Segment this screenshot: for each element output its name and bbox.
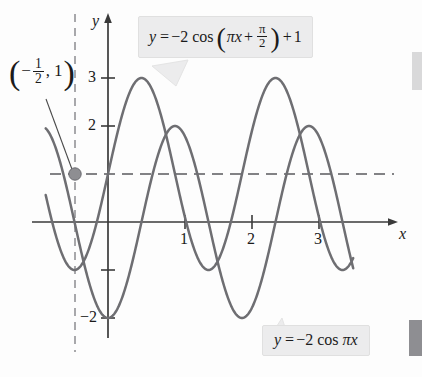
- callout-upper-equals: =: [160, 29, 169, 45]
- callout-upper-plus-inner: +: [244, 29, 253, 45]
- y-tick-label-2: 2: [88, 116, 96, 134]
- y-tick-label-neg2: −2: [80, 308, 97, 326]
- callout-upper-frac-den: 2: [257, 36, 267, 50]
- point-comma: ,: [46, 61, 50, 81]
- x-tick-label-1: 1: [180, 230, 188, 248]
- callout-lower-coef: −2: [296, 332, 313, 348]
- point-y-value: 1: [54, 61, 63, 81]
- callout-upper-open-paren: (: [217, 29, 226, 46]
- point-coordinate-label: ( − 1 2 , 1 ): [8, 57, 76, 86]
- callout-upper-fraction: π 2: [257, 23, 267, 50]
- callout-upper-cos: cos: [192, 29, 213, 45]
- x-tick-label-3: 3: [314, 230, 322, 248]
- callout-upper-y: y: [149, 29, 156, 45]
- equation-callout-base: y = −2 cos πx: [262, 325, 370, 356]
- point-close-paren: ): [63, 62, 74, 83]
- callout-lower-y: y: [274, 332, 281, 348]
- callout-lower-pix: πx: [343, 332, 358, 348]
- y-tick-label-3: 3: [88, 68, 96, 86]
- point-open-paren: (: [9, 62, 20, 83]
- x-tick-label-2: 2: [247, 230, 255, 248]
- callout-lower-equals: =: [285, 332, 294, 348]
- point-minus-sign: −: [21, 61, 31, 81]
- point-fraction: 1 2: [33, 57, 44, 86]
- edge-artifact-bottom: [409, 320, 422, 356]
- y-axis-arrow: [104, 13, 112, 23]
- math-figure: y = −2 cos ( πx + π 2 ) + 1 y: [0, 0, 422, 377]
- callout-lower-cos: cos: [317, 332, 338, 348]
- callout-upper-tail: [152, 60, 188, 86]
- marked-point: [69, 168, 81, 180]
- x-axis-arrow: [388, 218, 398, 226]
- callout-upper-coef: −2: [171, 29, 188, 45]
- equation-callout-shifted: y = −2 cos ( πx + π 2 ) + 1: [138, 16, 313, 58]
- callout-upper-constant: 1: [294, 29, 302, 45]
- callout-upper-frac-num: π: [257, 23, 267, 36]
- callout-upper-close-paren: ): [270, 29, 279, 46]
- x-axis-label: x: [399, 225, 406, 243]
- y-axis-label: y: [92, 12, 99, 30]
- point-frac-den: 2: [33, 71, 44, 86]
- point-frac-num: 1: [33, 57, 44, 71]
- callout-upper-plus-outer: +: [283, 29, 292, 45]
- edge-artifact-top: [412, 52, 422, 90]
- callout-upper-pix: πx: [227, 29, 242, 45]
